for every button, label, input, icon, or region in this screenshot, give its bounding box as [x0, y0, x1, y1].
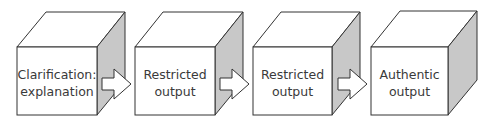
step-label-line1: Authentic: [379, 66, 439, 83]
step-label-1: Clarification: explanation: [17, 60, 97, 106]
step-label-line2: output: [154, 83, 195, 100]
step-label-2: Restricted output: [135, 60, 215, 106]
step-label-line2: output: [272, 83, 313, 100]
step-label-4: Authentic output: [371, 60, 448, 106]
step-label-line2: explanation: [20, 83, 93, 100]
step-label-line1: Clarification:: [17, 66, 96, 83]
step-label-line1: Restricted: [261, 66, 324, 83]
step-label-line1: Restricted: [143, 66, 206, 83]
step-label-line2: output: [389, 83, 430, 100]
step-label-3: Restricted output: [253, 60, 332, 106]
